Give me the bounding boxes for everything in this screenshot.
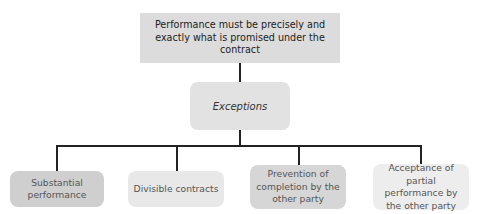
leaf-label: Prevention of completion by the other pa… xyxy=(256,168,340,206)
root-node: Performance must be precisely and exactl… xyxy=(140,13,340,63)
connector-leaf-3 xyxy=(298,145,300,165)
leaf-substantial-performance: Substantial performance xyxy=(10,171,104,207)
leaf-label: Divisible contracts xyxy=(134,183,219,196)
leaf-label: Acceptance of partial performance by the… xyxy=(377,162,465,212)
root-node-label: Performance must be precisely and exactl… xyxy=(146,19,334,57)
connector-horizontal xyxy=(56,145,421,147)
leaf-acceptance-of-partial-performance: Acceptance of partial performance by the… xyxy=(373,164,469,210)
connector-root-to-middle xyxy=(239,63,241,82)
connector-leaf-2 xyxy=(176,145,178,171)
connector-middle-down xyxy=(239,130,241,145)
exceptions-node-label: Exceptions xyxy=(213,101,268,112)
leaf-prevention-of-completion: Prevention of completion by the other pa… xyxy=(250,165,346,209)
leaf-label: Substantial performance xyxy=(22,177,92,202)
connector-leaf-1 xyxy=(56,145,58,171)
exceptions-node: Exceptions xyxy=(190,82,290,130)
leaf-divisible-contracts: Divisible contracts xyxy=(128,171,224,207)
